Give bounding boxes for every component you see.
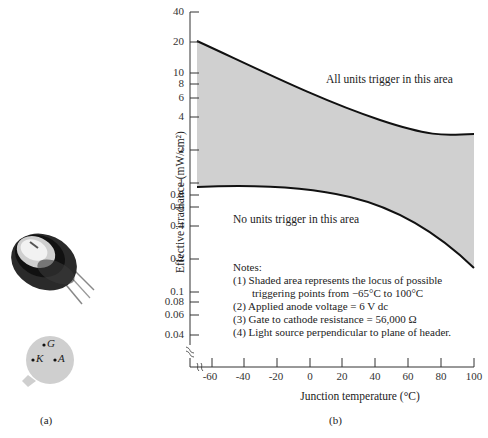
x-tick-label: 100: [457, 370, 488, 382]
x-tick-label: 40: [358, 370, 392, 382]
note-item: (3) Gate to cathode resistance = 56,000 …: [233, 313, 417, 325]
y-tick-label: 8: [150, 77, 184, 89]
caption-b: (b): [329, 414, 342, 426]
x-tick-label: -40: [226, 370, 260, 382]
note-item: (2) Applied anode voltage = 6 V dc: [233, 300, 388, 312]
y-tick-label: 0.06: [150, 308, 184, 320]
note-item: (4) Light source perpendicular to plane …: [233, 326, 451, 338]
x-tick-label: -60: [193, 370, 227, 382]
annotation-upper-region: All units trigger in this area: [326, 73, 453, 85]
x-axis-label: Junction temperature (°C): [280, 390, 440, 402]
x-tick-label: 20: [325, 370, 359, 382]
chart: 40 20 10 8 6 4 2 1 0.8 0.6 0.4 0.2 0.1 0…: [0, 0, 488, 438]
x-tick-label: -20: [259, 370, 293, 382]
y-tick-label: 20: [150, 35, 184, 47]
annotation-lower-region: No units trigger in this area: [233, 213, 359, 225]
x-tick-label: 0: [293, 370, 327, 382]
notes-title: Notes:: [233, 261, 262, 273]
y-tick-label: 40: [150, 5, 184, 17]
x-tick-label: 80: [424, 370, 458, 382]
note-item: triggering points from −65°C to 100°C: [252, 287, 423, 299]
y-axis-label: Effective irradiance (mW/cm²): [174, 102, 186, 302]
y-tick-label: 0.04: [150, 328, 184, 340]
x-tick-label: 60: [391, 370, 425, 382]
note-item: (1) Shaded area represents the locus of …: [233, 274, 442, 286]
